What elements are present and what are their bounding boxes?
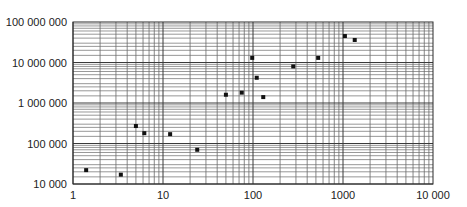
x-tick-label: 100 (244, 189, 262, 201)
data-point-marker (119, 173, 123, 177)
y-tick-label: 100 000 000 (6, 16, 67, 28)
data-point-marker (168, 132, 172, 136)
y-tick-label: 1 000 000 (18, 97, 67, 109)
x-tick-label: 1 (70, 189, 76, 201)
y-tick-label: 10 000 000 (12, 57, 67, 69)
data-point-marker (250, 56, 254, 60)
data-point-marker (261, 95, 265, 99)
data-point-marker (224, 93, 228, 97)
data-point-marker (255, 76, 259, 80)
data-point-marker (134, 124, 138, 128)
data-point-marker (353, 38, 357, 42)
log-log-scatter-chart: 10 000100 0001 000 00010 000 000100 000 … (0, 0, 467, 207)
y-axis-tick-labels: 10 000100 0001 000 00010 000 000100 000 … (6, 16, 67, 190)
x-axis-tick-labels: 110100100010 000 (70, 189, 450, 201)
data-point-marker (316, 56, 320, 60)
data-point-marker (291, 64, 295, 68)
data-point-marker (142, 131, 146, 135)
data-point-marker (84, 168, 88, 172)
data-point-marker (240, 91, 244, 95)
data-point-marker (195, 148, 199, 152)
x-tick-label: 10 (157, 189, 169, 201)
data-point-marker (343, 34, 347, 38)
y-tick-label: 10 000 (33, 178, 67, 190)
y-tick-label: 100 000 (27, 138, 67, 150)
x-tick-label: 1000 (331, 189, 355, 201)
x-tick-label: 10 000 (416, 189, 450, 201)
